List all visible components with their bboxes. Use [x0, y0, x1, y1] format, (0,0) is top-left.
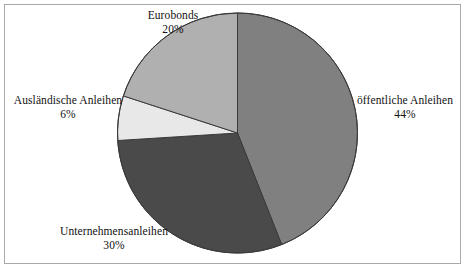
pie-label-eurobonds-value: 20%	[110, 22, 236, 36]
pie-label-oeffentliche-anleihen: öffentliche Anleihen 44%	[345, 93, 465, 121]
pie-label-unternehmensanleihen-value: 30%	[38, 238, 190, 252]
pie-label-eurobonds-name: Eurobonds	[110, 8, 236, 22]
chart-plot-area: Eurobonds 20% Ausländische Anleihen 6% ö…	[0, 0, 466, 269]
pie-label-auslaendische-anleihen-name: Ausländische Anleihen	[2, 93, 134, 107]
pie-label-unternehmensanleihen: Unternehmensanleihen 30%	[38, 224, 190, 252]
pie-label-auslaendische-anleihen-value: 6%	[2, 107, 134, 121]
pie-slice-group	[118, 13, 358, 253]
pie-chart-figure: Eurobonds 20% Ausländische Anleihen 6% ö…	[0, 0, 466, 269]
pie-label-oeffentliche-anleihen-name: öffentliche Anleihen	[345, 93, 465, 107]
pie-label-eurobonds: Eurobonds 20%	[110, 8, 236, 36]
pie-label-unternehmensanleihen-name: Unternehmensanleihen	[38, 224, 190, 238]
pie-label-auslaendische-anleihen: Ausländische Anleihen 6%	[2, 93, 134, 121]
pie-label-oeffentliche-anleihen-value: 44%	[345, 107, 465, 121]
